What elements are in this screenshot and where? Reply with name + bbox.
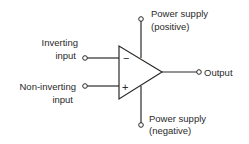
output-terminal: [197, 70, 202, 75]
inverting-sign: −: [123, 52, 129, 64]
output-label: Output: [204, 67, 233, 78]
pos-supply-label-2: (positive): [151, 21, 190, 32]
noninverting-sign: +: [122, 81, 128, 93]
noninverting-input-label-1: Non-inverting: [20, 81, 77, 92]
op-amp-diagram: − + Inverting input Non-inverting input …: [0, 0, 249, 144]
neg-supply-label-1: Power supply: [149, 113, 206, 124]
neg-supply-label-2: (negative): [149, 125, 191, 136]
neg-supply-terminal: [139, 123, 144, 128]
inverting-input-terminal: [83, 56, 88, 61]
inverting-input-label-2: input: [55, 50, 76, 61]
pos-supply-label-1: Power supply: [151, 8, 208, 19]
inverting-input-label-1: Inverting: [42, 37, 78, 48]
noninverting-input-label-2: input: [52, 94, 73, 105]
pos-supply-terminal: [139, 17, 144, 22]
noninverting-input-terminal: [83, 84, 88, 89]
